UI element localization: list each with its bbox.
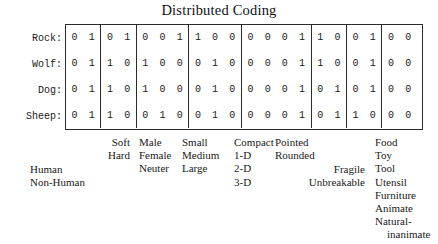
bit-cell: 1 [293,103,310,128]
bit-cell: 1 [207,51,224,77]
legend-label: inanimate [375,228,430,241]
bit-group-function: 0 0 0 0 0 1 0 [382,51,423,77]
bit-cell: 1 [137,51,154,77]
bit-cell: 0 [417,77,423,103]
bit-cell: 0 [242,103,259,128]
bit-cell: 1 [364,51,381,77]
legend-label: Food [375,136,430,149]
bit-cell: 0 [137,103,154,128]
bit-group-shape: 0 0 0 1 [242,77,312,103]
bit-cell: 0 [119,77,136,103]
matrix-row-wolf: 0 1 1 0 1 0 0 0 1 0 0 0 0 1 1 0 0 1 [66,51,422,77]
bit-group-human: 0 1 [66,77,101,103]
legend-group-fragile: Fragile Unbreakable [290,163,365,189]
legend-label: Neuter [139,162,171,175]
bit-cell: 1 [83,51,100,77]
legend-label: 3-D [234,176,274,189]
bit-group-texture: 1 0 [101,51,136,77]
legend-label: Compact [234,136,274,149]
legend-label: Soft [88,136,130,149]
bit-cell: 0 [276,25,293,51]
bit-cell: 0 [259,103,276,128]
bit-cell: 0 [224,25,241,51]
bit-cell: 0 [171,51,188,77]
bit-cell: 0 [66,25,83,51]
feature-legend: Human Non-Human Soft Hard Male Female Ne… [0,136,438,244]
bit-cell: 0 [417,25,423,51]
bit-group-fragile: 0 1 [347,25,382,51]
bit-group-gender: 0 1 0 [137,103,190,128]
legend-label: Toy [375,149,430,162]
legend-label: Utensil [375,176,430,189]
legend-label: Female [139,149,171,162]
bit-cell: 1 [83,77,100,103]
bit-cell: 0 [171,103,188,128]
legend-label: Natural- [375,215,430,228]
bit-group-size: 0 1 0 [189,103,242,128]
bit-cell: 0 [66,51,83,77]
bit-group-texture: 0 1 [101,25,136,51]
bit-group-point: 0 1 [312,77,347,103]
bit-cell: 1 [207,77,224,103]
bit-group-gender: 1 0 0 [137,77,190,103]
bit-cell: 0 [329,25,346,51]
bit-cell: 0 [312,103,329,128]
legend-group-human: Human Non-Human [30,163,85,189]
distributed-coding-matrix: 0 1 0 1 0 0 1 1 0 0 0 0 0 1 1 0 0 1 [65,24,423,130]
bit-cell: 1 [329,103,346,128]
bit-group-size: 1 0 0 [189,25,242,51]
legend-group-gender: Male Female Neuter [139,136,171,176]
bit-cell: 1 [154,103,171,128]
bit-cell: 0 [400,25,417,51]
bit-cell: 0 [382,51,399,77]
row-label-sheep: Sheep: [4,104,62,130]
bit-cell: 0 [66,77,83,103]
legend-label: Large [182,162,219,175]
bit-cell: 0 [347,51,364,77]
bit-cell: 0 [400,103,417,128]
row-label-dog: Dog: [4,78,62,104]
legend-label: Animate [375,202,430,215]
bit-group-human: 0 1 [66,25,101,51]
legend-label: Hard [88,149,130,162]
bit-cell: 1 [347,103,364,128]
bit-cell: 0 [207,25,224,51]
bit-group-texture: 1 0 [101,103,136,128]
legend-label: Small [182,136,219,149]
legend-label: Male [139,136,171,149]
bit-cell: 1 [293,77,310,103]
bit-group-function: 0 0 0 0 0 1 0 [382,77,423,103]
legend-group-shape: Compact 1-D 2-D 3-D [234,136,274,189]
bit-cell: 0 [189,51,206,77]
bit-cell: 0 [259,25,276,51]
bit-group-shape: 0 0 0 1 [242,51,312,77]
bit-cell: 0 [224,51,241,77]
bit-group-shape: 0 0 0 1 [242,25,312,51]
bit-cell: 1 [312,51,329,77]
bit-cell: 1 [83,25,100,51]
matrix-row-dog: 0 1 1 0 1 0 0 0 1 0 0 0 0 1 0 1 0 1 [66,77,422,103]
bit-cell: 0 [137,25,154,51]
bit-cell: 0 [242,51,259,77]
bit-cell: 1 [293,51,310,77]
bit-group-size: 0 1 0 [189,77,242,103]
matrix-row-sheep: 0 1 1 0 0 1 0 0 1 0 0 0 0 1 0 1 1 0 [66,103,422,128]
legend-label: Unbreakable [290,176,365,189]
bit-cell: 0 [242,25,259,51]
bit-cell: 0 [382,77,399,103]
legend-label: Fragile [290,163,365,176]
page-title: Distributed Coding [0,2,438,19]
bit-cell: 1 [329,77,346,103]
bit-cell: 1 [119,25,136,51]
bit-cell: 0 [382,103,399,128]
bit-cell: 0 [276,103,293,128]
bit-cell: 0 [171,77,188,103]
legend-label: Furniture [375,189,430,202]
bit-group-point: 0 1 [312,103,347,128]
bit-cell: 0 [276,51,293,77]
bit-cell: 0 [347,25,364,51]
legend-label: Pointed [275,136,315,149]
legend-group-texture: Soft Hard [88,136,130,162]
bit-cell: 0 [154,51,171,77]
bit-group-gender: 0 0 1 [137,25,190,51]
